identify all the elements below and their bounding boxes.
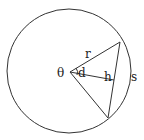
label-chord: h [104,70,112,84]
label-apothem: d [78,66,86,80]
circle-segment-diagram: r θ d h s [0,0,144,140]
label-radius: r [85,47,91,61]
label-angle: θ [57,66,64,80]
label-arc: s [131,70,137,84]
radius-line-lower [70,72,108,118]
circle-outline [7,9,131,133]
